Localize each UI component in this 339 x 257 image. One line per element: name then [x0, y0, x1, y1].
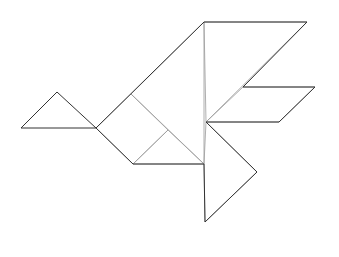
head-triangle	[21, 92, 96, 128]
neck-square	[96, 94, 168, 164]
body-triangle-small	[133, 130, 204, 164]
tail-triangle	[204, 122, 257, 222]
wing-parallelogram	[206, 87, 315, 122]
tangram-figure	[0, 0, 339, 257]
outline-back	[96, 22, 307, 128]
body-triangle-large	[131, 22, 204, 164]
